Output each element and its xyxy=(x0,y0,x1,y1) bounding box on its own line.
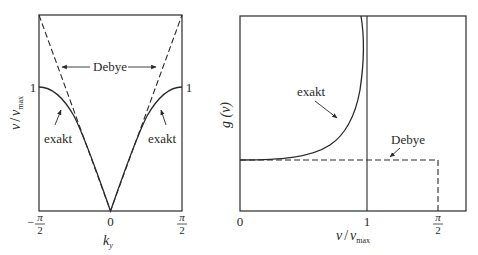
right-xtick-zero: 0 xyxy=(237,214,244,229)
left-exakt-label-right: exakt xyxy=(148,131,177,146)
right-xtick-pi-half: π 2 xyxy=(433,211,443,236)
left-exakt-label-left: exakt xyxy=(44,131,73,146)
left-exakt-arrow-right xyxy=(161,110,166,125)
left-debye-label: Debye xyxy=(93,59,127,74)
svg-text:π: π xyxy=(37,211,43,223)
svg-text:π: π xyxy=(179,211,185,223)
left-exakt-curve xyxy=(39,87,182,211)
svg-text:2: 2 xyxy=(435,224,441,236)
left-xlabel: ky xyxy=(103,233,113,250)
right-exakt-label: exakt xyxy=(297,84,326,99)
left-exakt-arrow-left xyxy=(55,110,61,125)
left-xtick-pi-half: π 2 xyxy=(177,211,187,236)
left-debye-curve xyxy=(39,15,182,211)
right-debye-curve xyxy=(240,160,438,211)
right-plot: exakt Debye g (ν) 0 1 π 2 ν/νmax xyxy=(218,16,466,245)
left-ytick-1-right: 1 xyxy=(186,80,193,95)
left-ytick-1-left: 1 xyxy=(30,80,37,95)
svg-text:−: − xyxy=(28,215,35,229)
left-plot: Debye exakt exakt 1 1 ν/νmax − π 2 0 π 2 xyxy=(8,15,192,250)
svg-text:g (ν): g (ν) xyxy=(218,102,234,128)
svg-text:2: 2 xyxy=(37,224,43,236)
right-debye-label: Debye xyxy=(391,132,425,147)
right-xtick-one: 1 xyxy=(364,214,371,229)
left-xtick-neg-pi-half: − π 2 xyxy=(28,211,45,236)
svg-text:π: π xyxy=(435,211,441,223)
right-xlabel: ν/νmax xyxy=(336,228,370,245)
right-debye-arrow xyxy=(390,148,400,157)
left-xtick-zero: 0 xyxy=(107,214,114,229)
left-plot-frame xyxy=(39,15,182,211)
left-ylabel: ν/νmax xyxy=(8,96,25,130)
right-ylabel: g (ν) xyxy=(218,102,234,128)
svg-text:ν/νmax: ν/νmax xyxy=(8,96,25,130)
svg-text:2: 2 xyxy=(179,224,185,236)
right-exakt-arrow xyxy=(315,101,337,118)
diagram-canvas: Debye exakt exakt 1 1 ν/νmax − π 2 0 π 2 xyxy=(0,0,478,255)
